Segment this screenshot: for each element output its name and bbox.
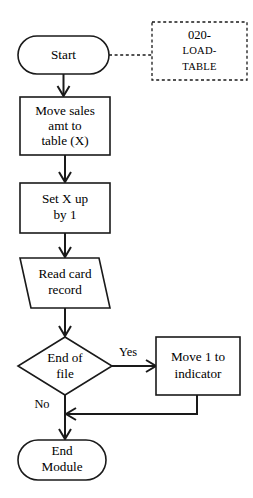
node-move-indicator: Move 1 to indicator (156, 337, 240, 395)
flowchart-canvas: 020- LOAD- TABLE Start Move sales amt to… (0, 0, 253, 498)
branch-label-no: No (34, 397, 49, 411)
node-read-card: Read card record (20, 258, 110, 308)
node-end-module: End Module (18, 440, 106, 480)
move-sales-line-2: amt to (48, 118, 82, 133)
node-start: Start (18, 36, 109, 74)
connector-yes-branch (112, 360, 156, 372)
annotation-comment-box: 020- LOAD- TABLE (152, 22, 247, 80)
annotation-line-2: LOAD- (183, 45, 217, 56)
set-x-line-2: by 1 (53, 207, 76, 222)
connector-read-card-to-decision (59, 308, 71, 336)
start-label: Start (51, 47, 76, 62)
end-module-line-1: End (51, 443, 73, 458)
connector-set-x-to-read-card (59, 233, 71, 257)
decision-line-1: End of (47, 350, 83, 365)
node-end-of-file-decision: End of file (18, 337, 112, 395)
node-move-sales: Move sales amt to table (X) (20, 97, 110, 155)
connector-return-to-end (66, 395, 197, 420)
move-sales-line-1: Move sales (35, 103, 95, 118)
end-module-line-2: Module (41, 459, 82, 474)
node-set-x: Set X up by 1 (20, 183, 110, 233)
read-card-line-2: record (48, 282, 82, 297)
branch-label-yes: Yes (119, 345, 137, 359)
connector-move-sales-to-set-x (59, 155, 71, 182)
move-indicator-line-1: Move 1 to (171, 349, 226, 364)
move-indicator-line-2: indicator (175, 366, 222, 381)
move-sales-line-3: table (X) (41, 133, 88, 148)
decision-line-2: file (56, 366, 74, 381)
connector-start-to-move-sales (58, 74, 70, 96)
read-card-line-1: Read card (38, 266, 91, 281)
annotation-line-1: 020- (188, 28, 211, 42)
annotation-line-3: TABLE (182, 61, 216, 72)
set-x-line-1: Set X up (42, 191, 89, 206)
